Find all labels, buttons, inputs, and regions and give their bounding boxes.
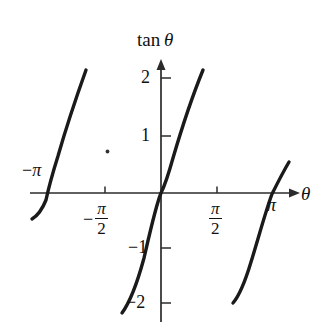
y-axis-title-function: tan (137, 29, 160, 50)
x-tick-label-pi: π (267, 196, 276, 214)
neg-half-pi-denominator: 2 (95, 219, 108, 237)
curve-branch-left (32, 70, 86, 219)
x-tick-label-neg-pi: −π (22, 161, 41, 179)
x-tick-label-half-pi: π 2 (209, 200, 222, 237)
y-axis-title-variable: θ (164, 29, 173, 50)
half-pi-fraction: π 2 (209, 200, 222, 237)
y-tick-label-2: 2 (141, 68, 150, 86)
curve-branch-middle (122, 70, 203, 313)
curve-branch-right (233, 162, 289, 303)
x-axis (30, 189, 300, 198)
half-pi-numerator: π (209, 200, 222, 219)
stray-dot-artifact (106, 150, 110, 154)
neg-pi-symbol: π (32, 160, 41, 180)
neg-half-pi-sign: − (83, 210, 93, 228)
neg-half-pi-numerator: π (95, 200, 108, 219)
neg-half-pi-fraction: π 2 (95, 200, 108, 237)
y-tick-label-1: 1 (141, 126, 150, 144)
tangent-function-chart: tan θ θ 2 1 −1 −2 −π π − π 2 π 2 (0, 0, 331, 331)
y-axis-title: tan θ (137, 30, 173, 49)
half-pi-denominator: 2 (209, 219, 222, 237)
y-tick-label-neg-2: −2 (126, 293, 145, 311)
x-axis-title: θ (301, 184, 310, 203)
neg-pi-sign: − (22, 160, 32, 180)
y-tick-label-neg-1: −1 (128, 238, 147, 256)
x-tick-label-neg-half-pi: − π 2 (83, 200, 108, 237)
